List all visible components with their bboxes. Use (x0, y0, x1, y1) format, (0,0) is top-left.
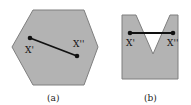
label-x1-a: X' (25, 45, 34, 55)
point-x2-b (171, 31, 176, 36)
caption-b: (b) (144, 93, 157, 103)
label-x1-b: X' (126, 38, 135, 48)
point-x2-a (75, 54, 80, 59)
figure-b: X' X'' (b) (122, 15, 178, 103)
caption-a: (a) (47, 93, 59, 103)
label-x2-b: X'' (167, 38, 178, 48)
label-x2-a: X'' (73, 39, 84, 49)
point-x1-b (128, 31, 133, 36)
point-x1-a (28, 36, 33, 41)
figure-a: X' X'' (a) (12, 10, 98, 103)
convexity-diagram: X' X'' (a) X' X'' (b) (0, 0, 191, 105)
